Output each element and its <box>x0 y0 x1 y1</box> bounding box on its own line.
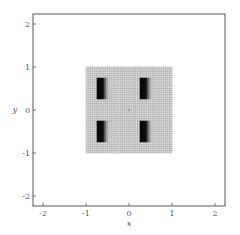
dark-region-top-left <box>97 78 110 100</box>
origin-marker <box>128 109 130 111</box>
x-tick-label: 0 <box>126 209 131 218</box>
x-axis-label: x <box>127 219 132 228</box>
x-tick-label: -2 <box>39 209 47 218</box>
y-tick-label: 1 <box>25 63 30 72</box>
y-tick-label: 2 <box>25 20 30 29</box>
y-tick-label: -1 <box>22 149 30 158</box>
y-axis-label: y <box>12 105 18 114</box>
y-tick-label: -2 <box>22 192 30 201</box>
plot-area <box>86 67 172 153</box>
dark-region-top-right <box>140 78 153 100</box>
x-tick-label: 2 <box>212 209 217 218</box>
y-tick-label: 0 <box>25 106 30 115</box>
dark-region-bottom-left <box>97 121 110 143</box>
x-tick-label: -1 <box>82 209 90 218</box>
dark-region-bottom-right <box>140 121 153 143</box>
chart-canvas: -2-1012-2-1012 x y <box>0 0 240 235</box>
x-tick-label: 1 <box>169 209 174 218</box>
